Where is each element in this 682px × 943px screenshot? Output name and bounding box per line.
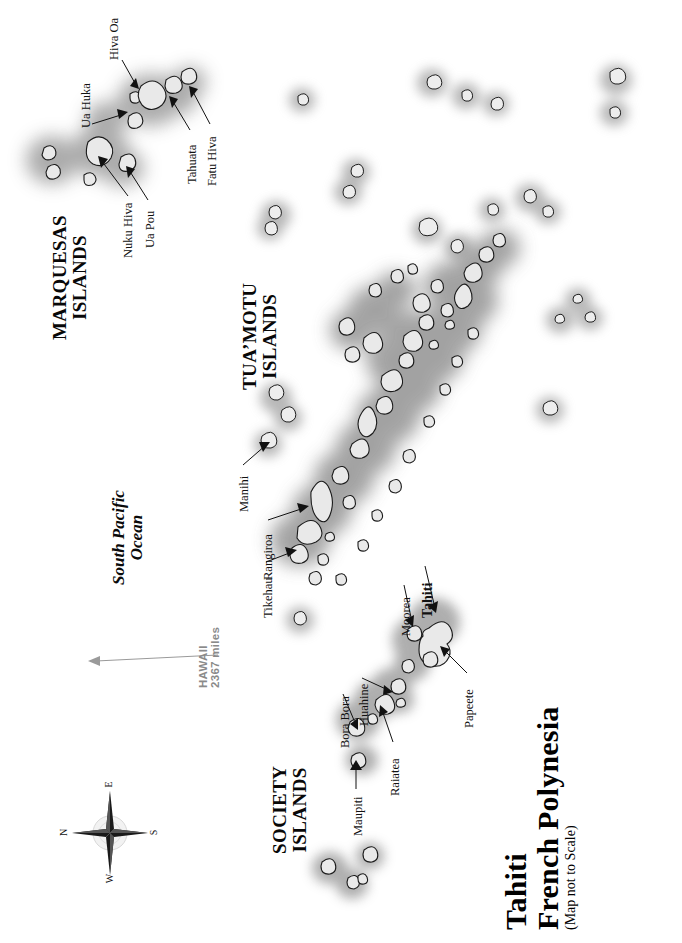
ocean-label-south-pacific: South Pacific Ocean [110, 490, 146, 585]
group-label-society-line1: SOCIETY [270, 766, 290, 854]
island-label-fatu-hiva: Fatu Hiva [206, 136, 219, 186]
leaders-tuamotu [243, 442, 309, 562]
island-label-tahiti: Tahiti [421, 583, 436, 618]
island-label-ua-pou: Ua Pou [144, 211, 157, 248]
group-label-society: SOCIETY ISLANDS [270, 766, 310, 854]
hawaii-destination: HAWAII [197, 627, 209, 688]
compass-label-south: S [148, 830, 159, 836]
island-label-tahuata: Tahuata [186, 145, 199, 184]
island-label-bora-bora: Bora Bora [339, 696, 352, 748]
map-title-block: Tahiti French Polynesia (Map not to Scal… [500, 707, 579, 930]
island-label-maupiti: Maupiti [352, 796, 365, 836]
group-label-tuamotu-line2: ISLANDS [260, 283, 280, 390]
island-label-ua-huka: Ua Huka [80, 83, 93, 128]
group-label-society-line2: ISLANDS [290, 766, 310, 854]
compass-rose-graphic [60, 783, 160, 883]
island-label-nuku-hiva: Nuku Hiva [122, 203, 135, 258]
hawaii-distance-label: HAWAII 2367 miles [197, 627, 221, 688]
group-label-marquesas-line1: MARQUESAS [50, 215, 70, 340]
ocean-label-line1: South Pacific [110, 490, 128, 585]
compass-label-east: E [103, 781, 114, 787]
compass-rose: E N S W [60, 783, 160, 883]
island-label-raiatea: Raiatea [389, 759, 402, 796]
group-label-marquesas-line2: ISLANDS [70, 215, 90, 340]
map-title-line1: Tahiti [500, 707, 532, 930]
island-label-tikehau: Tikehau [262, 577, 275, 618]
map-title-note: (Map not to Scale) [564, 707, 579, 930]
group-label-tuamotu-line1: TUA’MOTU [240, 283, 260, 390]
map-title-line2: French Polynesia [532, 707, 564, 930]
island-label-hiva-oa: Hiva Oa [108, 18, 121, 60]
map-canvas: MARQUESAS ISLANDS TUA’MOTU ISLANDS SOCIE… [0, 0, 682, 943]
hawaii-distance-value: 2367 miles [209, 627, 221, 688]
island-label-manihi: Manihi [238, 476, 251, 512]
compass-label-north: N [58, 829, 69, 836]
group-label-marquesas: MARQUESAS ISLANDS [50, 215, 90, 340]
ocean-label-line2: Ocean [128, 490, 146, 585]
island-label-moorea: Moorea [400, 597, 413, 636]
compass-label-west: W [104, 874, 115, 883]
island-label-huahine: Huahine [358, 684, 371, 726]
island-label-rangiroa: Rangiroa [262, 534, 275, 580]
island-label-papeete: Papeete [463, 689, 476, 728]
group-label-tuamotu: TUA’MOTU ISLANDS [240, 283, 280, 390]
